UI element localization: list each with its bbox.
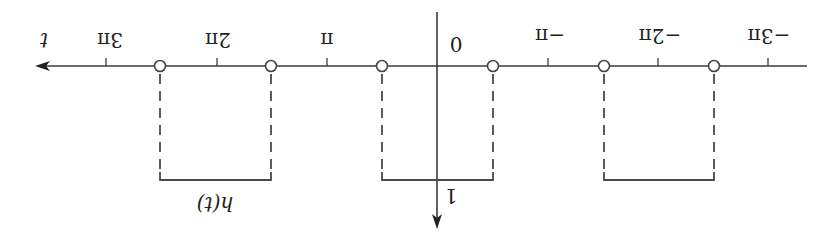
open-point <box>155 61 166 72</box>
pulse-train-diagram: t 3π 2π π 0 −π −2π −3π 1 h(t) <box>0 0 830 237</box>
t-axis-label: t <box>39 28 48 52</box>
open-point <box>599 61 610 72</box>
open-point <box>709 61 720 72</box>
open-point <box>488 61 499 72</box>
origin-label: 0 <box>450 32 463 56</box>
tick-label-neg-3pi: −3π <box>748 24 791 48</box>
open-point <box>266 61 277 72</box>
amplitude-label: 1 <box>445 184 458 208</box>
tick-label-2pi: 2π <box>205 28 231 52</box>
function-label: h(t) <box>197 192 234 216</box>
tick-label-pi: π <box>320 28 333 52</box>
tick-label-neg-pi: −π <box>535 24 565 48</box>
pulse-3 <box>604 74 714 180</box>
tick-label-3pi: 3π <box>97 28 123 52</box>
open-point <box>377 61 388 72</box>
pulse-1 <box>160 74 271 180</box>
tick-label-neg-2pi: −2π <box>639 24 682 48</box>
